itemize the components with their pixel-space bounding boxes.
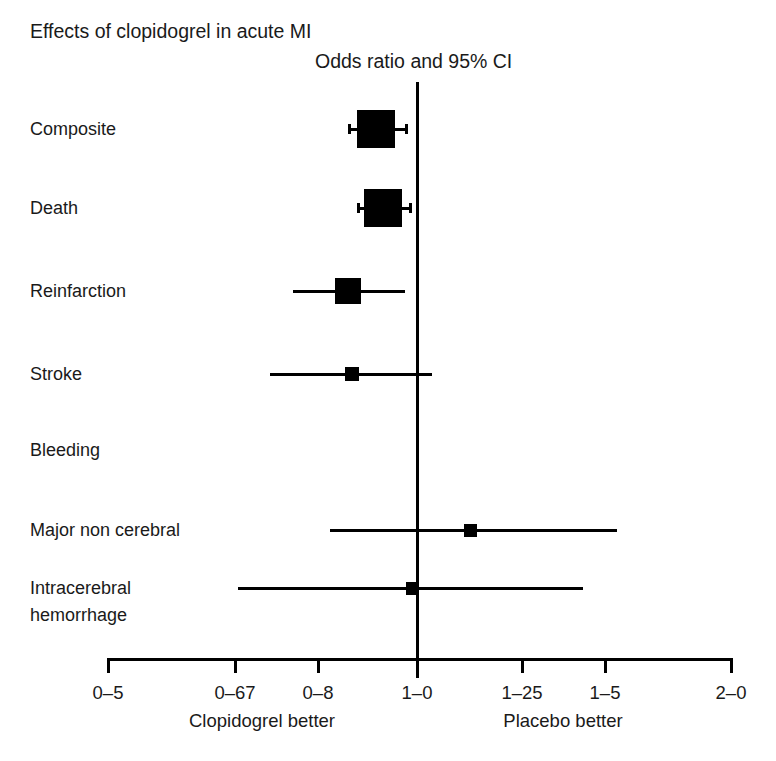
point-estimate-marker-3 [345, 367, 359, 381]
left-side-annotation: Clopidogrel better [189, 710, 335, 732]
row-label-4: Bleeding [30, 441, 100, 459]
right-side-annotation: Placebo better [503, 710, 622, 732]
row-label-text: Composite [30, 119, 116, 139]
row-label-2: Reinfarction [30, 282, 126, 300]
x-axis-tick-1 [234, 658, 237, 673]
point-estimate-marker-5 [464, 524, 477, 537]
row-label-text: Major non cerebral [30, 520, 180, 540]
x-axis-tick-label-1: 0–67 [214, 682, 255, 704]
x-axis-tick-label-6: 2–0 [716, 682, 747, 704]
x-axis-tick-label-0: 0–5 [93, 682, 124, 704]
ci-cap-high-0 [405, 124, 408, 134]
row-label-0: Composite [30, 120, 116, 138]
point-estimate-marker-0 [357, 110, 395, 148]
forest-plot-figure: Effects of clopidogrel in acute MI Odds … [0, 0, 776, 761]
row-label-text: Death [30, 198, 78, 218]
ci-cap-low-1 [357, 203, 360, 213]
row-label-6: Intracerebralhemorrhage [30, 579, 131, 624]
row-label-1: Death [30, 199, 78, 217]
point-estimate-marker-1 [364, 189, 402, 227]
x-axis-tick-label-2: 0–8 [303, 682, 334, 704]
row-label-3: Stroke [30, 365, 82, 383]
ci-cap-low-0 [348, 124, 351, 134]
x-axis-tick-6 [730, 658, 733, 673]
point-estimate-marker-2 [335, 278, 361, 304]
point-estimate-marker-6 [406, 582, 419, 595]
x-axis-tick-3 [416, 658, 419, 673]
row-label-text: hemorrhage [30, 606, 131, 624]
x-axis-tick-2 [317, 658, 320, 673]
row-label-5: Major non cerebral [30, 521, 180, 539]
x-axis-tick-label-5: 1–5 [590, 682, 621, 704]
x-axis-tick-0 [107, 658, 110, 673]
x-axis-tick-5 [604, 658, 607, 673]
row-label-text: Bleeding [30, 440, 100, 460]
row-label-text: Intracerebral [30, 578, 131, 598]
x-axis-tick-label-3: 1–0 [402, 682, 433, 704]
plot-area: CompositeDeathReinfarctionStrokeBleeding… [0, 0, 776, 761]
ci-cap-high-1 [409, 203, 412, 213]
x-axis-tick-4 [521, 658, 524, 673]
row-label-text: Reinfarction [30, 281, 126, 301]
x-axis-line [108, 658, 731, 661]
x-axis-tick-label-4: 1–25 [501, 682, 542, 704]
row-label-text: Stroke [30, 364, 82, 384]
